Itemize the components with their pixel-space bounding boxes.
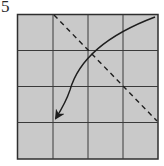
folding-diagram bbox=[0, 0, 164, 166]
